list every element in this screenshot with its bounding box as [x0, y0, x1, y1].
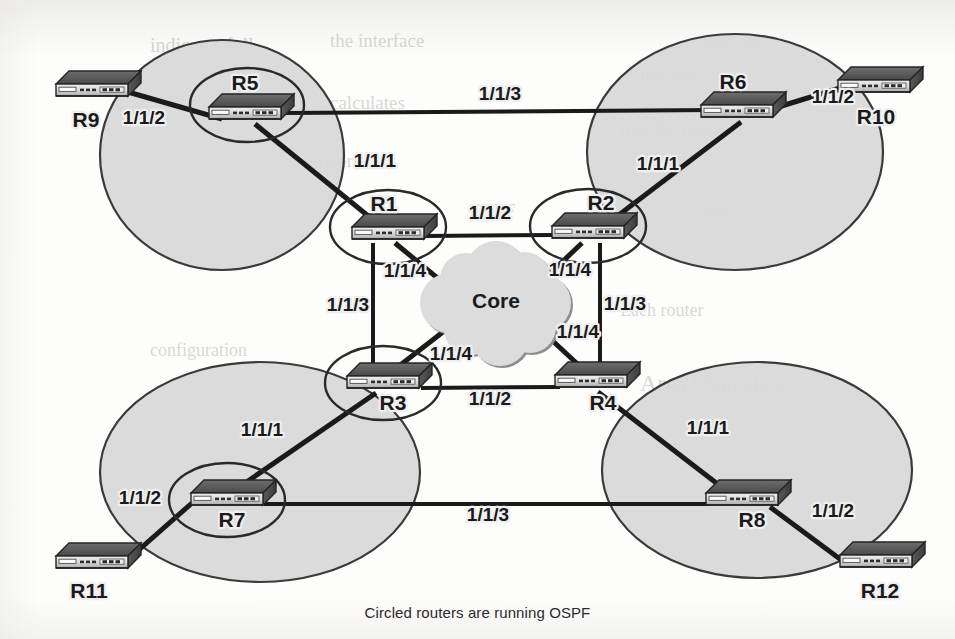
iface-r2-core: 1/1/4	[549, 259, 592, 280]
iface-r5-r6: 1/1/3	[479, 83, 521, 104]
router-r1-label: R1	[371, 192, 398, 215]
iface-r4-core: 1/1/4	[557, 321, 600, 342]
router-r2[interactable]	[552, 213, 637, 238]
router-r5[interactable]	[209, 94, 294, 119]
router-r6[interactable]	[701, 92, 786, 117]
router-r12-label: R12	[861, 579, 900, 602]
router-r9[interactable]	[56, 71, 141, 96]
iface-r3-r7: 1/1/1	[241, 419, 284, 440]
router-r2-label: R2	[588, 191, 615, 214]
router-r10-label: R10	[857, 105, 896, 128]
router-r3-label: R3	[380, 391, 407, 414]
router-r6-label: R6	[720, 70, 747, 93]
router-r8-label: R8	[739, 508, 766, 531]
ospf-topology-figure: indicates fullthe interfacedefaultsthe d…	[0, 0, 955, 639]
iface-r4-r8: 1/1/1	[687, 417, 730, 438]
iface-r6-r2: 1/1/1	[637, 153, 680, 174]
iface-r8-r12: 1/1/2	[812, 500, 854, 521]
iface-r2-r4: 1/1/3	[604, 293, 646, 314]
router-r5-label: R5	[232, 71, 259, 94]
iface-r7-r8: 1/1/3	[467, 504, 509, 525]
iface-r3-core: 1/1/4	[430, 343, 473, 364]
iface-r1-r2: 1/1/2	[469, 202, 511, 223]
iface-r9-r5: 1/1/2	[123, 107, 165, 128]
router-r11-label: R11	[70, 579, 108, 602]
router-r12[interactable]	[840, 542, 925, 567]
router-r1[interactable]	[352, 214, 437, 239]
router-r11[interactable]	[56, 543, 141, 568]
router-r9-label: R9	[73, 108, 100, 131]
iface-r5-r1: 1/1/1	[354, 150, 397, 171]
network-diagram-canvas: Core 1/1/21/1/21/1/31/1/31/1/11/1/11/1/2…	[0, 0, 955, 639]
router-r3[interactable]	[347, 363, 432, 388]
router-r7-label: R7	[219, 508, 246, 531]
figure-caption: Circled routers are running OSPF	[0, 604, 955, 621]
iface-r3-r4: 1/1/2	[469, 388, 511, 409]
core-cloud-label: Core	[472, 289, 520, 312]
router-r7[interactable]	[191, 480, 276, 505]
iface-r6-r10: 1/1/2	[812, 86, 854, 107]
router-r4-label: R4	[590, 391, 617, 414]
iface-r1-core: 1/1/4	[384, 260, 427, 281]
iface-r7-r11: 1/1/2	[119, 487, 161, 508]
router-r8[interactable]	[706, 480, 791, 505]
iface-r1-r3: 1/1/3	[327, 294, 369, 315]
router-r4[interactable]	[555, 362, 640, 387]
